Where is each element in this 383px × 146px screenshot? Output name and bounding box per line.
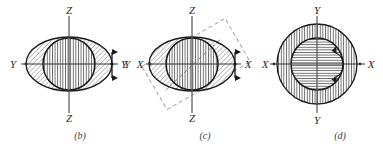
panel-d-label-left: X <box>261 58 270 70</box>
panel-c-label-left: X <box>136 58 145 70</box>
panel-c-label-top: Z <box>189 4 196 16</box>
panel-c-label-bottom: Z <box>189 112 196 124</box>
panel-c-label-right: X <box>244 58 253 70</box>
panel-d-axis-tick-left <box>273 63 276 66</box>
panel-d-caption: (d) <box>334 130 346 142</box>
panel-c-caption: (c) <box>199 130 211 142</box>
panel-d-label-right: X <box>367 58 376 70</box>
panel-c-axis-tick-left <box>149 63 152 66</box>
panel-d-axis-tick-right <box>359 63 362 66</box>
panel-b-axis-tick-left <box>25 63 28 66</box>
panel-b-label-bottom: Z <box>66 112 73 124</box>
panel-b-label-top: Z <box>66 4 73 16</box>
figure-root: Z Z Y Y (b) Z Z Y X X (c) <box>0 0 383 146</box>
optical-indicatrix-figure: Z Z Y Y (b) Z Z Y X X (c) <box>0 0 383 146</box>
panel-b-caption: (b) <box>74 130 86 142</box>
